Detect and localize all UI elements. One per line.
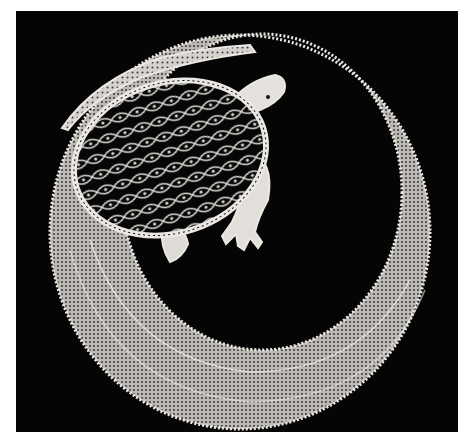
turtle-eye bbox=[266, 95, 270, 99]
lace-artwork bbox=[0, 0, 469, 442]
